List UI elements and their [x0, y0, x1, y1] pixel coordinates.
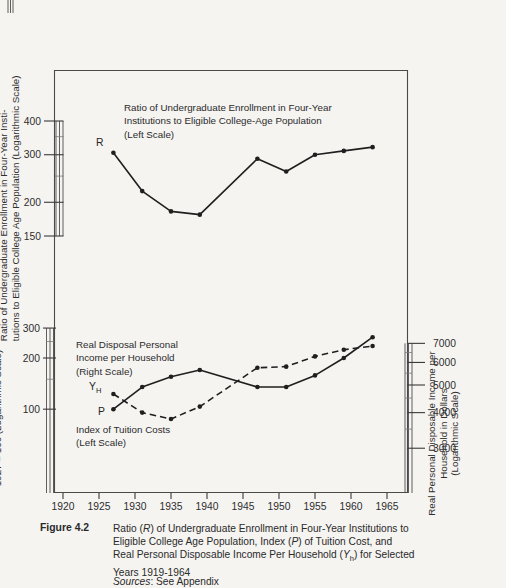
- y-axis-tick-label: 7000: [433, 338, 456, 349]
- series-P-point: [284, 385, 289, 390]
- annotation-line: Institutions to Eligible College-Age Pop…: [124, 114, 332, 127]
- x-axis-tick-label: 1965: [376, 501, 399, 512]
- p-axis-tick-label: 300: [23, 323, 40, 334]
- annotation-line: Index of Tuition Costs: [76, 423, 170, 436]
- annotation-line: Ratio of Undergraduate Enrollment in Fou…: [124, 101, 332, 114]
- r-axis-tick-label: 150: [24, 231, 41, 242]
- caption-text-segment: ) of Tuition Cost, and: [298, 536, 392, 547]
- figure-sources: Sources: See Appendix: [113, 576, 219, 587]
- series-label-YH: YH: [89, 381, 101, 395]
- series-R-point: [198, 212, 203, 217]
- series-P-point: [198, 368, 203, 373]
- annotation-line: (Left Scale): [124, 128, 332, 141]
- axis-label-right: Real Personal Disposable Income per Hous…: [426, 351, 461, 515]
- figure-number-label: Figure 4.2: [40, 522, 89, 533]
- series-P-point: [111, 407, 116, 412]
- x-axis-tick-label: 1920: [52, 501, 75, 512]
- series-P-point: [140, 385, 145, 390]
- series-R-point: [111, 150, 116, 155]
- series-R-point: [370, 145, 375, 150]
- r-axis-tick-label: 300: [24, 149, 41, 160]
- series-YH-point: [140, 410, 145, 415]
- caption-text-segment: Sources: [113, 576, 150, 587]
- annotation-line: Income per Household: [76, 351, 178, 364]
- axis-label-left-lower: Index of Tuition Cost 1927 = 100 (Logari…: [0, 350, 3, 486]
- axis-label-left-upper: Ratio of Undergraduate Enrollment in Fou…: [0, 75, 21, 341]
- series-P-point: [370, 335, 375, 340]
- annotation-income-series: Real Disposal Personal Income per Househ…: [76, 338, 178, 378]
- figure-caption: Ratio (R) of Undergraduate Enrollment in…: [113, 522, 473, 579]
- series-R-point: [342, 149, 347, 154]
- series-R-point: [140, 189, 145, 194]
- caption-text-segment: ) for Selected: [354, 549, 415, 560]
- x-axis-tick-label: 1960: [340, 501, 363, 512]
- series-YH-point: [342, 347, 347, 352]
- series-P-point: [255, 385, 260, 390]
- series-label-P: P: [98, 406, 105, 417]
- figure-page: 1920192519301935194019451950195519601965…: [0, 0, 506, 588]
- p-axis-tick-label: 200: [23, 353, 40, 364]
- series-R-point: [169, 209, 174, 214]
- caption-text-segment: Ratio (: [113, 523, 143, 534]
- x-axis-tick-label: 1945: [232, 501, 255, 512]
- annotation-ratio-series: Ratio of Undergraduate Enrollment in Fou…: [124, 101, 332, 141]
- axis-label-line: tutions to Eligible College Age Populati…: [9, 75, 21, 341]
- axis-label-line: Household in Dollars: [438, 351, 450, 515]
- series-YH-point: [370, 344, 375, 349]
- caption-line: Ratio (R) of Undergraduate Enrollment in…: [113, 522, 473, 535]
- x-axis-tick-label: 1955: [304, 501, 327, 512]
- x-axis-tick-label: 1935: [160, 501, 183, 512]
- annotation-line: Real Disposal Personal: [76, 338, 178, 351]
- caption-text-segment: ) of Undergraduate Enrollment in Four-Ye…: [150, 523, 408, 534]
- caption-line: Eligible College Age Population, Index (…: [113, 535, 473, 548]
- axis-label-line: (Logarithmic Scale): [449, 351, 461, 515]
- series-R-point: [284, 169, 289, 174]
- axis-label-line: 1927 = 100 (Logarithmic Scale): [0, 350, 3, 486]
- axis-label-line: Real Personal Disposable Income per: [426, 351, 438, 515]
- series-label-YH-base: Y: [89, 381, 96, 392]
- caption-text-segment: : See Appendix: [150, 576, 219, 587]
- series-label-YH-subscript: H: [96, 386, 101, 395]
- series-YH-point: [284, 364, 289, 369]
- annotation-line: (Left Scale): [76, 436, 170, 449]
- series-P-point: [313, 373, 318, 378]
- series-R-point: [255, 156, 260, 161]
- caption-text-segment: Y: [343, 549, 350, 560]
- annotation-line: (Right Scale): [76, 365, 178, 378]
- x-axis-tick-label: 1930: [124, 501, 147, 512]
- caption-text-segment: Eligible College Age Population, Index (: [113, 536, 291, 547]
- series-YH-point: [169, 417, 174, 422]
- series-label-R: R: [96, 137, 104, 148]
- series-R-line: [113, 147, 372, 214]
- caption-text-segment: Real Personal Disposable Income Per Hous…: [113, 549, 343, 560]
- x-axis-tick-label: 1940: [196, 501, 219, 512]
- annotation-tuition-series: Index of Tuition Costs (Left Scale): [76, 423, 170, 450]
- series-R-point: [313, 152, 318, 157]
- axis-label-line: Ratio of Undergraduate Enrollment in Fou…: [0, 75, 9, 341]
- caption-line: Real Personal Disposable Income Per Hous…: [113, 548, 473, 565]
- series-YH-point: [111, 392, 116, 397]
- r-axis-tick-label: 400: [24, 116, 41, 127]
- x-axis-tick-label: 1925: [88, 501, 111, 512]
- x-axis-tick-label: 1950: [268, 501, 291, 512]
- p-axis-tick-label: 100: [23, 404, 40, 415]
- series-YH-point: [313, 354, 318, 359]
- series-YH-point: [198, 404, 203, 409]
- series-YH-point: [255, 365, 260, 370]
- series-P-point: [342, 356, 347, 361]
- r-axis-tick-label: 200: [24, 197, 41, 208]
